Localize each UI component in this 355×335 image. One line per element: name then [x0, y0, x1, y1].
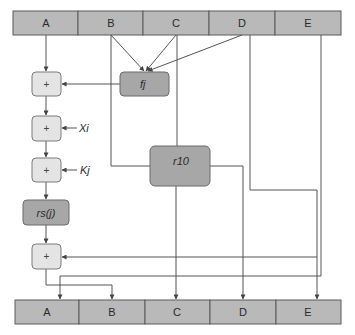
wire-add4-to-output-b	[46, 269, 112, 299]
output-register-e-label: E	[304, 306, 311, 318]
input-kj-label: Kj	[80, 164, 90, 176]
output-register-a-label: A	[43, 306, 51, 318]
wire-b-to-r10	[111, 35, 150, 166]
output-register-b-label: B	[108, 306, 115, 318]
output-register-c-label: C	[173, 306, 181, 318]
wire-r10-to-output-d	[210, 166, 243, 299]
wire-b-to-fj	[111, 35, 144, 71]
wire-d-to-fj	[148, 35, 242, 71]
wire-e-to-output-a	[60, 276, 321, 299]
input-register-c-label: C	[172, 17, 180, 29]
output-register-bar: A B C D E	[15, 300, 341, 324]
rotate-r10-label: r10	[173, 155, 190, 167]
input-register-a-label: A	[42, 17, 50, 29]
input-register-d-label: D	[238, 17, 246, 29]
function-fj-label: fj	[140, 78, 146, 90]
adder-2-label: +	[44, 123, 50, 134]
input-register-bar: A B C D E	[13, 11, 341, 35]
input-xi-label: Xi	[78, 122, 89, 134]
adder-4-label: +	[44, 251, 50, 262]
output-register-d-label: D	[239, 306, 247, 318]
rotate-rs-label: rs(j)	[37, 207, 56, 219]
input-register-e-label: E	[304, 17, 311, 29]
input-register-b-label: B	[107, 17, 114, 29]
adder-3-label: +	[44, 165, 50, 176]
operators: + fj + Xi + Kj rs(j) r10 +	[23, 72, 210, 269]
ripemd-round-diagram: A B C D E	[0, 0, 355, 335]
adder-1-label: +	[44, 79, 50, 90]
